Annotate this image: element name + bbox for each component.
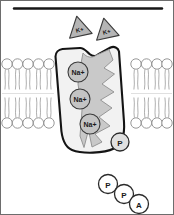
- lipid-head-icon: [152, 59, 162, 69]
- lipid-tail-icon: [169, 98, 170, 118]
- atp-subunit-label: P: [121, 191, 127, 200]
- lipid-head-icon: [23, 59, 33, 69]
- lipid-head-icon: [131, 118, 141, 128]
- lipid-head-icon: [141, 118, 151, 128]
- lipid-tail-icon: [134, 98, 135, 118]
- sodium-ion[interactable]: Na+: [70, 89, 90, 109]
- lipid-tail-icon: [144, 98, 145, 118]
- lipid-head-icon: [141, 59, 151, 69]
- lipid-tail-icon: [30, 98, 31, 118]
- sodium-ion-label: Na+: [83, 121, 96, 128]
- lipid-head-icon: [162, 59, 172, 69]
- lipid-tail-icon: [15, 98, 16, 118]
- lipid-tail-icon: [26, 98, 27, 118]
- bound-phosphate-label: P: [117, 139, 123, 148]
- lipid-tail-icon: [47, 69, 48, 89]
- lipid-head-icon: [162, 118, 172, 128]
- lipid-tail-icon: [30, 69, 31, 89]
- sodium-ion-label: Na+: [73, 96, 86, 103]
- lipid-tail-icon: [36, 69, 37, 89]
- lipid-tail-icon: [40, 98, 41, 118]
- lipid-head-icon: [12, 118, 22, 128]
- lipid-head-icon: [44, 59, 54, 69]
- lipid-tail-icon: [159, 98, 160, 118]
- lipid-head-icon: [2, 59, 12, 69]
- lipid-tail-icon: [138, 98, 139, 118]
- lipid-tail-icon: [148, 69, 149, 89]
- sodium-ion[interactable]: Na+: [80, 114, 100, 134]
- lipid-tail-icon: [19, 98, 20, 118]
- atp-subunit-label: A: [136, 201, 142, 210]
- atp-subunit-label: P: [105, 181, 111, 190]
- lipid-head-icon: [152, 118, 162, 128]
- lipid-tail-icon: [155, 69, 156, 89]
- lipid-tail-icon: [19, 69, 20, 89]
- lipid-head-icon: [23, 118, 33, 128]
- lipid-tail-icon: [51, 98, 52, 118]
- lipid-tail-icon: [155, 98, 156, 118]
- sodium-potassium-pump-diagram: Na+ Na+ Na+ K+ K+ P: [0, 0, 174, 215]
- lipid-head-icon: [12, 59, 22, 69]
- lipid-tail-icon: [26, 69, 27, 89]
- lipid-tail-icon: [165, 69, 166, 89]
- lipid-tail-icon: [148, 98, 149, 118]
- lipid-tail-icon: [36, 98, 37, 118]
- lipid-tail-icon: [159, 69, 160, 89]
- lipid-tail-icon: [134, 69, 135, 89]
- lipid-tail-icon: [15, 69, 16, 89]
- lipid-head-icon: [33, 118, 43, 128]
- lipid-tail-icon: [5, 98, 6, 118]
- atp-subunit[interactable]: A: [130, 195, 149, 214]
- bound-phosphate[interactable]: P: [111, 133, 129, 151]
- lipid-tail-icon: [40, 69, 41, 89]
- lipid-tail-icon: [165, 98, 166, 118]
- lipid-tail-icon: [5, 69, 6, 89]
- lipid-tail-icon: [9, 69, 10, 89]
- lipid-head-icon: [33, 59, 43, 69]
- lipid-head-icon: [44, 118, 54, 128]
- lipid-tail-icon: [144, 69, 145, 89]
- lipid-head-icon: [131, 59, 141, 69]
- sodium-ion-label: Na+: [71, 69, 84, 76]
- lipid-tail-icon: [9, 98, 10, 118]
- lipid-tail-icon: [169, 69, 170, 89]
- lipid-tail-icon: [51, 69, 52, 89]
- lipid-tail-icon: [138, 69, 139, 89]
- lipid-head-icon: [2, 118, 12, 128]
- sodium-ion[interactable]: Na+: [68, 62, 88, 82]
- lipid-tail-icon: [47, 98, 48, 118]
- figure-root: Na+ Na+ Na+ K+ K+ P: [0, 0, 174, 215]
